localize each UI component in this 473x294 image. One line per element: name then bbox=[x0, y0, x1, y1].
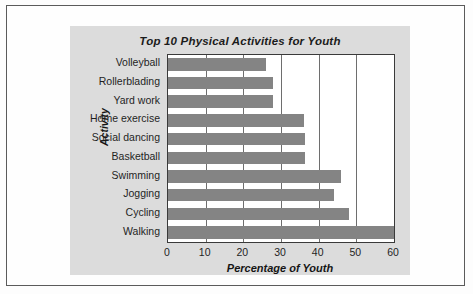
bar-row bbox=[168, 55, 394, 74]
x-tick-20: 20 bbox=[230, 246, 254, 258]
y-axis-category-labels: VolleyballRollerbladingYard workHome exe… bbox=[70, 54, 164, 241]
y-axis-label-yard-work: Yard work bbox=[70, 95, 160, 106]
bar[interactable] bbox=[168, 114, 304, 127]
y-axis-label-volleyball: Volleyball bbox=[70, 57, 160, 68]
bar[interactable] bbox=[168, 189, 334, 202]
bar[interactable] bbox=[168, 226, 394, 239]
bar[interactable] bbox=[168, 77, 273, 90]
y-axis-label-cycling: Cycling bbox=[70, 207, 160, 218]
x-tick-60: 60 bbox=[381, 246, 405, 258]
x-tick-0: 0 bbox=[155, 246, 179, 258]
x-axis-title: Percentage of Youth bbox=[167, 262, 393, 274]
x-tick-30: 30 bbox=[268, 246, 292, 258]
bar[interactable] bbox=[168, 95, 273, 108]
bar[interactable] bbox=[168, 208, 349, 221]
bar-row bbox=[168, 130, 394, 149]
y-axis-label-jogging: Jogging bbox=[70, 188, 160, 199]
y-axis-label-basketball: Basketball bbox=[70, 151, 160, 162]
bar-row bbox=[168, 74, 394, 93]
chart-page: Top 10 Physical Activities for Youth Act… bbox=[0, 0, 473, 294]
x-tick-40: 40 bbox=[306, 246, 330, 258]
page-border-frame: Top 10 Physical Activities for Youth Act… bbox=[6, 5, 465, 286]
bar[interactable] bbox=[168, 152, 305, 165]
y-axis-label-home-exercise: Home exercise bbox=[70, 113, 160, 124]
bar-row bbox=[168, 92, 394, 111]
bar-row bbox=[168, 186, 394, 205]
bar[interactable] bbox=[168, 58, 266, 71]
y-axis-label-swimming: Swimming bbox=[70, 170, 160, 181]
bar-row bbox=[168, 167, 394, 186]
bar[interactable] bbox=[168, 170, 341, 183]
bar-row bbox=[168, 149, 394, 168]
plot-inner bbox=[168, 55, 394, 242]
plot-area bbox=[167, 54, 395, 243]
x-axis-tick-labels: 0102030405060 bbox=[167, 246, 393, 260]
y-axis-label-social-dancing: Social dancing bbox=[70, 132, 160, 143]
x-tick-10: 10 bbox=[193, 246, 217, 258]
y-axis-label-walking: Walking bbox=[70, 226, 160, 237]
y-axis-label-rollerblading: Rollerblading bbox=[70, 76, 160, 87]
chart-panel: Top 10 Physical Activities for Youth Act… bbox=[70, 26, 410, 275]
bar[interactable] bbox=[168, 133, 305, 146]
bar-row bbox=[168, 223, 394, 242]
x-tick-50: 50 bbox=[343, 246, 367, 258]
chart-title: Top 10 Physical Activities for Youth bbox=[70, 35, 410, 47]
bar-row bbox=[168, 205, 394, 224]
bar-row bbox=[168, 111, 394, 130]
